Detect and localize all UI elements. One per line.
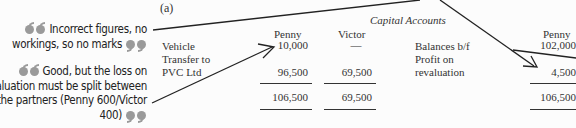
total-victor-debit: 69,500 bbox=[326, 91, 372, 104]
open-quote-icon bbox=[25, 25, 34, 34]
rule bbox=[260, 83, 312, 84]
row-label-vehicle-transfer: Vehicle Transfer to PVC Ltd bbox=[162, 40, 210, 79]
comment-loss-on-valuation: Good, but the loss on valuation must be … bbox=[0, 64, 147, 122]
cell-penny-vehicle: 10,000 bbox=[262, 39, 308, 52]
rule bbox=[530, 109, 576, 110]
close-quote-icon bbox=[126, 40, 135, 49]
row-label-profit-revaluation: Profit on revaluation bbox=[415, 53, 464, 79]
close-quote-icon bbox=[137, 111, 146, 120]
open-quote-icon bbox=[19, 67, 28, 76]
table-title: Capital Accounts bbox=[370, 14, 446, 27]
comment-incorrect-figures: Incorrect figures, no workings, so no ma… bbox=[0, 22, 147, 51]
cell-penny-balance-cd: 96,500 bbox=[262, 66, 308, 79]
rule bbox=[260, 109, 312, 110]
open-quote-icon bbox=[30, 67, 39, 76]
cell-victor-balance-cd: 69,500 bbox=[326, 66, 372, 79]
rule bbox=[324, 83, 376, 84]
total-penny-credit: 106,500 bbox=[530, 91, 576, 104]
cell-penny-profit-revaluation: 4,500 bbox=[530, 66, 576, 79]
rule bbox=[530, 83, 576, 84]
total-penny-debit: 106,500 bbox=[262, 91, 308, 104]
close-quote-icon bbox=[137, 40, 146, 49]
cell-penny-balances-bf: 102,000 bbox=[530, 39, 576, 52]
rule bbox=[324, 109, 376, 110]
cell-victor-vehicle: — bbox=[340, 39, 372, 52]
close-quote-icon bbox=[126, 111, 135, 120]
part-label: (a) bbox=[160, 2, 173, 15]
row-label-balances-bf: Balances b/f bbox=[415, 40, 470, 53]
open-quote-icon bbox=[36, 25, 45, 34]
